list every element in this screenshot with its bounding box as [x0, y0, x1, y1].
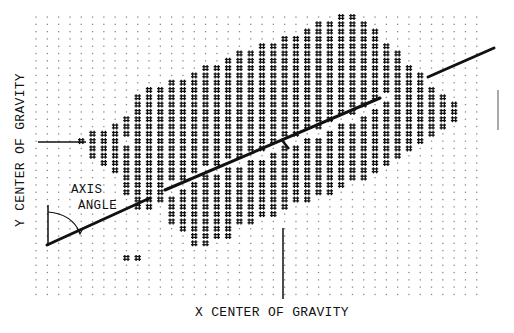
hash-mark [281, 182, 287, 188]
hash-mark [259, 189, 265, 195]
hash-mark [157, 167, 163, 173]
hash-mark [157, 109, 163, 115]
hash-mark [248, 160, 254, 166]
hash-mark [168, 109, 174, 115]
hash-mark [123, 145, 129, 151]
hash-mark [304, 80, 310, 86]
hash-mark [327, 131, 333, 137]
hash-mark [135, 116, 141, 122]
hash-mark [315, 109, 321, 115]
hash-mark [123, 175, 129, 181]
hash-mark [214, 218, 220, 224]
hash-mark [304, 116, 310, 122]
hash-mark [135, 255, 141, 261]
hash-mark [383, 160, 389, 166]
hash-mark [293, 189, 299, 195]
hash-mark [304, 160, 310, 166]
hash-mark [89, 153, 95, 159]
hash-mark [417, 72, 423, 78]
hash-mark [248, 116, 254, 122]
hash-mark [406, 72, 412, 78]
hash-mark [202, 153, 208, 159]
hash-mark [236, 87, 242, 93]
hash-mark [225, 138, 231, 144]
hash-mark [383, 145, 389, 151]
hash-mark [214, 145, 220, 151]
hash-mark [372, 160, 378, 166]
hash-mark [304, 72, 310, 78]
hash-mark [372, 43, 378, 49]
hash-mark [214, 153, 220, 159]
hash-mark [338, 153, 344, 159]
hash-mark [349, 160, 355, 166]
hash-mark [180, 102, 186, 108]
hash-mark [270, 109, 276, 115]
hash-mark [135, 167, 141, 173]
hash-mark [225, 145, 231, 151]
hash-mark [248, 124, 254, 130]
axis-angle-label-line1: AXIS [71, 183, 102, 197]
hash-mark [270, 131, 276, 137]
hash-mark [304, 51, 310, 57]
hash-mark [236, 167, 242, 173]
hash-mark [214, 94, 220, 100]
hash-mark [304, 182, 310, 188]
hash-mark [78, 138, 84, 144]
hash-mark [112, 145, 118, 151]
hash-mark [293, 65, 299, 71]
hash-mark [191, 167, 197, 173]
hash-mark [361, 29, 367, 35]
hash-mark [361, 43, 367, 49]
hash-mark [191, 218, 197, 224]
hash-mark [372, 145, 378, 151]
hash-mark [236, 138, 242, 144]
hash-mark [338, 145, 344, 151]
hash-mark [112, 131, 118, 137]
hash-mark [315, 58, 321, 64]
hash-mark [338, 182, 344, 188]
hash-mark [157, 182, 163, 188]
hash-mark [157, 124, 163, 130]
hash-mark [361, 116, 367, 122]
hash-mark [168, 211, 174, 217]
hash-mark [180, 153, 186, 159]
hash-mark [372, 167, 378, 173]
hash-mark [202, 116, 208, 122]
hash-mark [157, 94, 163, 100]
hash-mark [135, 160, 141, 166]
hash-mark [349, 51, 355, 57]
hash-mark [327, 109, 333, 115]
hash-mark [202, 131, 208, 137]
hash-mark [338, 80, 344, 86]
hash-mark [270, 58, 276, 64]
hash-mark [157, 87, 163, 93]
hash-mark [327, 72, 333, 78]
hash-mark [304, 138, 310, 144]
hash-mark [315, 94, 321, 100]
hash-mark [202, 102, 208, 108]
hash-mark [383, 138, 389, 144]
hash-mark [191, 102, 197, 108]
hash-mark [191, 109, 197, 115]
hash-mark [406, 80, 412, 86]
hash-mark [327, 87, 333, 93]
hash-mark [349, 131, 355, 137]
hash-mark [259, 197, 265, 203]
hash-mark [349, 36, 355, 42]
hash-mark [394, 65, 400, 71]
hash-mark [315, 102, 321, 108]
hash-mark [248, 211, 254, 217]
hash-mark [361, 36, 367, 42]
hash-mark [191, 233, 197, 239]
hash-mark [281, 65, 287, 71]
hash-mark [180, 226, 186, 232]
hash-mark [349, 29, 355, 35]
hash-mark [417, 124, 423, 130]
hash-mark [304, 109, 310, 115]
hash-mark [123, 189, 129, 195]
hash-mark [394, 87, 400, 93]
hash-mark [214, 211, 220, 217]
hash-mark [406, 116, 412, 122]
hash-mark [168, 116, 174, 122]
hash-mark [383, 131, 389, 137]
